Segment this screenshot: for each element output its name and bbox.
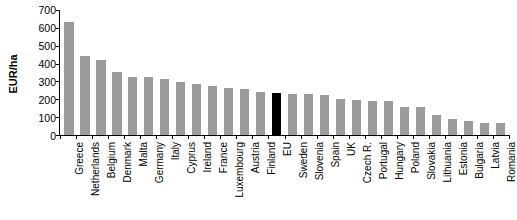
x-axis-tick-mark	[509, 135, 510, 139]
x-axis-tick-mark	[381, 135, 382, 139]
x-axis-tick-mark	[172, 135, 173, 139]
y-axis-tick-label: 100	[38, 112, 56, 124]
bar	[112, 72, 121, 135]
y-axis-tick-label: 200	[38, 94, 56, 106]
x-axis-tick-mark	[461, 135, 462, 139]
x-axis-tick-marks	[60, 135, 509, 140]
bar	[224, 88, 233, 135]
x-axis-label-slot: Finland	[252, 142, 268, 218]
x-axis-label-slot: Austria	[236, 142, 252, 218]
x-axis-tick-mark	[92, 135, 93, 139]
bar	[400, 107, 409, 135]
x-axis-tick-mark	[76, 135, 77, 139]
bar	[448, 119, 457, 135]
bar	[192, 84, 201, 135]
bar-slot	[253, 10, 269, 135]
x-axis-tick-mark	[236, 135, 237, 139]
bar	[368, 101, 377, 135]
y-axis-tick-label: 400	[38, 58, 56, 70]
x-axis-label-slot: Poland	[396, 142, 412, 218]
bar	[304, 94, 313, 135]
x-axis-label-slot: Ireland	[188, 142, 204, 218]
x-axis-label-slot: Greece	[60, 142, 76, 218]
bar-slot	[428, 10, 444, 135]
x-axis-tick-mark	[365, 135, 366, 139]
y-axis-tick-label: 700	[38, 4, 56, 16]
bar-slot	[364, 10, 380, 135]
x-axis-label-slot: Netherlands	[76, 142, 92, 218]
x-axis-label-slot: Slovenia	[300, 142, 316, 218]
x-axis-label-slot: Romania	[492, 142, 508, 218]
x-axis-tick-mark	[220, 135, 221, 139]
bar-slot	[332, 10, 348, 135]
bar-slot	[412, 10, 428, 135]
bar	[384, 101, 393, 135]
x-axis-label-slot: Spain	[316, 142, 332, 218]
x-axis-tick-mark	[445, 135, 446, 139]
y-axis-title-text: EUR/ha	[7, 54, 19, 93]
bar	[288, 94, 297, 135]
bar	[64, 22, 73, 135]
bar	[96, 60, 105, 135]
x-axis-label-slot: Luxembourg	[220, 142, 236, 218]
x-axis-tick-mark	[493, 135, 494, 139]
x-axis-tick-mark	[252, 135, 253, 139]
bar	[464, 121, 473, 135]
x-axis-tick-mark	[60, 135, 61, 139]
x-axis-label-slot: Lithuania	[428, 142, 444, 218]
x-axis-tick-mark	[108, 135, 109, 139]
x-axis-label-slot: EU	[268, 142, 284, 218]
bar-slot	[205, 10, 221, 135]
bar	[144, 77, 153, 135]
bar-slot	[460, 10, 476, 135]
bar-slot	[109, 10, 125, 135]
bar-slot	[93, 10, 109, 135]
x-axis-label-slot: Germany	[140, 142, 156, 218]
bar-slot	[396, 10, 412, 135]
y-axis-tick-label: 300	[38, 76, 56, 88]
y-axis-tick-labels: 0100200300400500600700	[24, 10, 56, 136]
x-axis-label-slot: Cyprus	[172, 142, 188, 218]
x-axis-label-slot: Sweden	[284, 142, 300, 218]
bar	[128, 77, 137, 135]
x-axis-category-label: Romania	[506, 142, 517, 182]
x-axis-tick-mark	[301, 135, 302, 139]
y-axis-tick-label: 600	[38, 22, 56, 34]
bar-slot	[317, 10, 333, 135]
bar-slot	[301, 10, 317, 135]
bar-slot	[141, 10, 157, 135]
bar-slot	[61, 10, 77, 135]
y-axis-tick-label: 500	[38, 40, 56, 52]
bar-slot	[77, 10, 93, 135]
bar	[80, 56, 89, 135]
bar	[176, 82, 185, 135]
x-axis-label-slot: France	[204, 142, 220, 218]
bar-slot	[157, 10, 173, 135]
x-axis-tick-mark	[397, 135, 398, 139]
bar	[208, 86, 217, 135]
bar-slot	[444, 10, 460, 135]
x-axis-label-slot: Italy	[156, 142, 172, 218]
bar	[336, 99, 345, 135]
x-axis-label-slot: Denmark	[108, 142, 124, 218]
x-axis-label-slot: Malta	[124, 142, 140, 218]
x-axis-tick-mark	[477, 135, 478, 139]
bar-slot	[492, 10, 508, 135]
x-axis-category-labels: GreeceNetherlandsBelgiumDenmarkMaltaGerm…	[59, 142, 509, 218]
x-axis-tick-mark	[268, 135, 269, 139]
x-axis-label-slot: Latvia	[476, 142, 492, 218]
bar	[320, 95, 329, 135]
bar-slot	[285, 10, 301, 135]
x-axis-tick-mark	[317, 135, 318, 139]
x-axis-label-slot: UK	[332, 142, 348, 218]
x-axis-tick-mark	[188, 135, 189, 139]
x-axis-label-slot: Estonia	[444, 142, 460, 218]
bar	[160, 79, 169, 135]
bar-slot	[269, 10, 285, 135]
y-axis-title: EUR/ha	[2, 0, 24, 148]
bar	[256, 92, 265, 135]
bar-slot	[380, 10, 396, 135]
bar	[432, 115, 441, 135]
x-axis-tick-mark	[204, 135, 205, 139]
